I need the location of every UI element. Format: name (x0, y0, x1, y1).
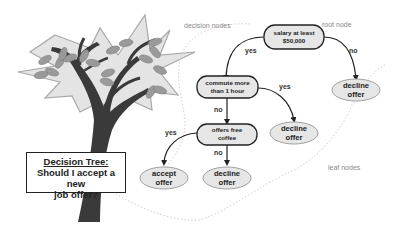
annotation-leaf-nodes: leaf nodes (328, 164, 361, 171)
coffee-node: offers free coffee (197, 124, 257, 145)
commute-node: commute more than 1 hour (197, 76, 258, 98)
title-line-3: job offer? (27, 189, 125, 200)
annotation-decision-nodes: decision nodes (184, 22, 231, 29)
leaf-coffee-yes-line2: offer (156, 178, 173, 187)
title-line-2: Should I accept a new (27, 167, 125, 189)
leaf-node-commute-yes: decline offer (270, 122, 318, 144)
leaf-commute-yes-line2: offer (286, 133, 303, 142)
diagram-title-box: Decision Tree: Should I accept a new job… (26, 152, 126, 193)
edge-label-commute-no: no (214, 106, 223, 113)
edge-label-root-no: no (349, 47, 358, 54)
edge-root-yes (226, 37, 264, 78)
leaf-root-no-line1: decline (343, 81, 369, 90)
edge-label-coffee-no: no (214, 149, 223, 156)
leaf-coffee-no-line2: offer (219, 178, 236, 187)
root-node-line1: salary at least (274, 29, 315, 36)
leaf-commute-yes-line1: decline (281, 124, 307, 133)
edge-commute-yes (258, 88, 294, 120)
commute-node-line2: than 1 hour (211, 87, 245, 94)
root-node-line2: $50,000 (283, 37, 306, 44)
annotation-root-node: root node (322, 21, 352, 28)
title-line-1: Decision Tree: (27, 156, 125, 167)
coffee-node-line2: coffee (218, 134, 237, 141)
leaf-root-no-line2: offer (348, 90, 365, 99)
leaf-node-coffee-yes: accept offer (140, 167, 188, 189)
edge-label-root-yes: yes (245, 47, 257, 55)
leaf-node-coffee-no: decline offer (203, 167, 251, 189)
leaf-coffee-yes-line1: accept (152, 169, 177, 178)
coffee-node-line1: offers free (212, 126, 243, 133)
edge-coffee-yes (164, 133, 197, 163)
leaf-node-root-no: decline offer (332, 79, 380, 101)
edge-root-no (324, 37, 356, 78)
commute-node-line1: commute more (205, 79, 250, 86)
leaf-coffee-no-line1: decline (214, 169, 240, 178)
root-node: salary at least $50,000 (264, 25, 324, 49)
edge-label-commute-yes: yes (279, 83, 291, 91)
edge-label-coffee-yes: yes (165, 129, 177, 137)
